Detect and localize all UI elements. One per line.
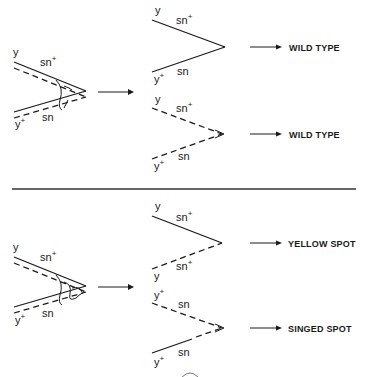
crossover-diagram: y sn+ y+ sn y sn+ y+ sn WILD TYPE [0, 0, 367, 377]
strand-lower-dashed [196, 328, 222, 337]
bottom-cross-label-sn: sn [42, 307, 54, 319]
bottom-product-2: y+ sn y+ sn SINGED SPOT [152, 287, 352, 368]
top-main-arrow [98, 89, 134, 95]
top-cross-label-sn-plus: sn+ [40, 54, 57, 68]
top-cross-label-sn: sn [42, 111, 54, 123]
result-arrow [250, 45, 282, 50]
label-upper-left: y [155, 200, 161, 212]
bottom-cross-label-y-plus: y+ [15, 312, 26, 326]
label-lower-left: y+ [154, 71, 165, 85]
label-upper-right: sn+ [176, 100, 193, 114]
result-arrow [250, 132, 282, 137]
label-lower-left: y+ [154, 158, 165, 172]
result-label: WILD TYPE [289, 130, 340, 140]
label-lower-right: sn [178, 346, 190, 358]
top-product-1: y sn+ y+ sn WILD TYPE [152, 4, 340, 85]
label-upper-right: sn+ [176, 12, 193, 26]
bottom-crossover-figure: y sn+ y+ sn [13, 241, 86, 326]
bottom-chromatid-2-solid [14, 286, 86, 307]
label-upper-left: y [155, 4, 161, 16]
top-cross-label-y: y [13, 46, 19, 58]
top-cross-label-y-plus: y+ [15, 116, 26, 130]
result-label: SINGED SPOT [288, 324, 352, 334]
label-upper-right: sn+ [176, 209, 193, 223]
result-arrow [250, 241, 282, 246]
bottom-cross-label-sn-plus: sn+ [40, 249, 57, 263]
top-chromatid-2-solid [14, 91, 86, 112]
label-lower-right: sn+ [176, 258, 193, 272]
label-lower-left: y+ [154, 354, 165, 368]
label-upper-left: y [155, 93, 161, 105]
top-crossover-figure: y sn+ y+ sn [13, 46, 86, 130]
bottom-product-1: y sn+ y sn+ YELLOW SPOT [152, 200, 356, 282]
bottom-main-arrow [98, 284, 134, 290]
top-product-2: y sn+ y+ sn WILD TYPE [152, 93, 340, 172]
label-upper-right: sn [178, 298, 190, 310]
page-edge-circle [182, 373, 198, 377]
result-label: WILD TYPE [289, 43, 340, 53]
bottom-panel: y sn+ y+ sn y sn+ y sn+ YELLOW SPOT [13, 200, 356, 377]
label-upper-left: y+ [154, 287, 165, 301]
top-chromatid-1-dashed [14, 68, 86, 97]
label-lower-right: sn [177, 65, 189, 77]
result-label: YELLOW SPOT [288, 239, 356, 249]
label-lower-left: y [154, 270, 160, 282]
top-panel: y sn+ y+ sn y sn+ y+ sn WILD TYPE [13, 4, 340, 172]
label-lower-right: sn [178, 150, 190, 162]
bottom-cross-label-y: y [13, 241, 19, 253]
strand-upper [152, 20, 225, 47]
result-arrow [250, 326, 282, 331]
